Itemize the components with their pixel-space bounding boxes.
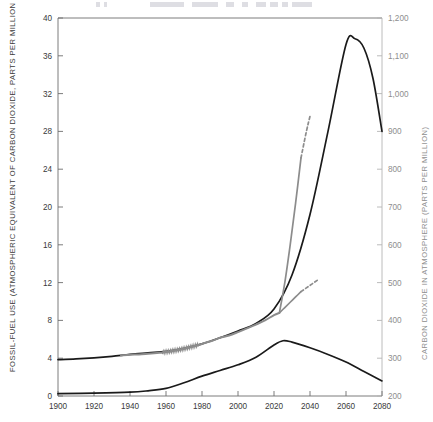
right-tick-label: 600 bbox=[388, 241, 402, 250]
left-tick-label: 24 bbox=[43, 165, 53, 174]
bottom-tick-label: 1960 bbox=[157, 402, 176, 411]
right-tick-label: 900 bbox=[388, 127, 402, 136]
bottom-tick-label: 1920 bbox=[85, 402, 104, 411]
left-tick-label: 28 bbox=[43, 127, 53, 136]
left-axis-title: FOSSIL-FUEL USE (ATMOSPHERIC EQUIVALENT … bbox=[8, 0, 17, 372]
left-tick-label: 8 bbox=[47, 316, 52, 325]
left-tick-label: 40 bbox=[43, 14, 53, 23]
right-tick-label: 1,100 bbox=[388, 52, 409, 61]
bottom-tick-label: 1980 bbox=[193, 402, 212, 411]
fossil-fuel-co2-chart: 0481216202428323640 20030040050060070080… bbox=[0, 0, 433, 422]
bottom-tick-label: 1940 bbox=[121, 402, 140, 411]
bottom-tick-label: 2020 bbox=[265, 402, 284, 411]
bottom-tick-label: 2000 bbox=[229, 402, 248, 411]
left-tick-label: 16 bbox=[43, 241, 53, 250]
bottom-tick-label: 2080 bbox=[373, 402, 392, 411]
left-tick-label: 32 bbox=[43, 90, 53, 99]
left-tick-label: 12 bbox=[43, 279, 53, 288]
right-tick-label: 200 bbox=[388, 392, 402, 401]
right-axis-title: CARBON DIOXIDE IN ATMOSPHERE (PARTS PER … bbox=[420, 127, 429, 360]
right-tick-label: 800 bbox=[388, 165, 402, 174]
right-tick-label: 500 bbox=[388, 279, 402, 288]
right-tick-label: 300 bbox=[388, 354, 402, 363]
bottom-tick-label: 1900 bbox=[49, 402, 68, 411]
right-tick-label: 1,000 bbox=[388, 90, 409, 99]
right-tick-label: 1,200 bbox=[388, 14, 409, 23]
left-tick-label: 20 bbox=[43, 203, 53, 212]
bottom-tick-label: 2040 bbox=[301, 402, 320, 411]
right-tick-label: 400 bbox=[388, 316, 402, 325]
left-tick-label: 4 bbox=[47, 354, 52, 363]
bottom-tick-label: 2060 bbox=[337, 402, 356, 411]
left-tick-label: 0 bbox=[47, 392, 52, 401]
chart-container: 0481216202428323640 20030040050060070080… bbox=[0, 0, 433, 422]
left-tick-label: 36 bbox=[43, 52, 53, 61]
right-tick-label: 700 bbox=[388, 203, 402, 212]
